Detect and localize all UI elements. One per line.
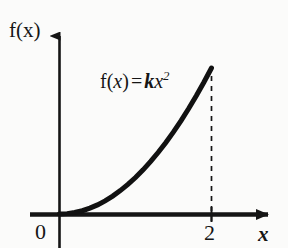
y-axis-label: f(x): [9, 20, 40, 41]
x-axis-label: x: [258, 224, 269, 245]
origin-tick-label: 0: [35, 221, 46, 243]
equation-variable-1: x: [113, 70, 122, 92]
equation-variable-2: x: [154, 70, 163, 92]
equation-close-paren: ): [122, 70, 129, 92]
function-graph-figure: f(x) x 0 2 f(x)=kx2: [0, 0, 288, 248]
equation-f-open: f(: [100, 70, 113, 92]
equation-coefficient-k: k: [144, 70, 154, 92]
function-equation-label: f(x)=kx2: [100, 70, 169, 91]
x-tick-label-2: 2: [204, 222, 215, 244]
plot-canvas: [0, 0, 288, 248]
equation-equals-sign: =: [129, 70, 144, 92]
equation-exponent: 2: [163, 69, 169, 83]
